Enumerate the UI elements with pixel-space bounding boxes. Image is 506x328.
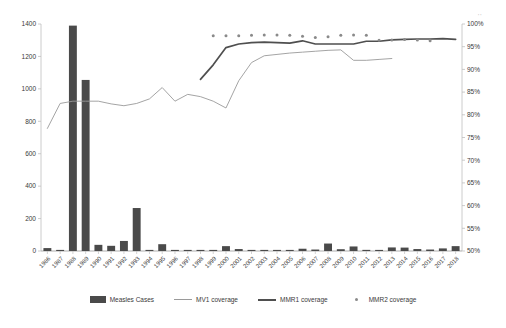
bar-2017 [439, 248, 447, 251]
legend-item-mmr2-coverage[interactable]: MMR2 coverage [348, 296, 417, 303]
bar-2011 [362, 250, 370, 251]
marker-2003 [263, 33, 266, 36]
marker-2004 [276, 33, 279, 36]
thick-line-swatch-icon [258, 299, 276, 301]
legend-item-measles-cases[interactable]: Measles Cases [90, 296, 154, 303]
y-axis-label-right: 50% [467, 247, 480, 254]
bar-2006 [299, 249, 307, 251]
bar-1995 [158, 244, 166, 251]
marker-2016 [429, 39, 432, 42]
marker-2010 [352, 33, 355, 36]
legend-item-mmr1-coverage[interactable]: MMR1 coverage [258, 296, 328, 303]
marker-2008 [327, 35, 330, 38]
bar-1990 [94, 245, 102, 251]
y-axis-label-right: 90% [467, 66, 480, 73]
y-axis-label-right: 95% [467, 43, 480, 50]
x-axis-label: 1991 [102, 255, 116, 269]
top-right-artifact: '' [478, 13, 482, 19]
chart-legend: Measles Cases MV1 coverage MMR1 coverage… [0, 296, 506, 303]
marker-2002 [250, 34, 253, 37]
thin-line-swatch-icon [174, 299, 192, 300]
bar-1998 [197, 250, 205, 251]
bar-1993 [133, 208, 141, 251]
x-axis-label: 1989 [76, 255, 90, 269]
bar-2018 [452, 246, 460, 251]
x-axis-label: 2014 [395, 255, 409, 269]
bar-2014 [401, 248, 409, 251]
y-axis-label-left: 1200 [22, 53, 37, 60]
x-axis-label: 2005 [280, 255, 294, 269]
x-axis-label: 1988 [63, 255, 77, 269]
y-axis-label-right: 80% [467, 111, 480, 118]
marker-2001 [237, 34, 240, 37]
bar-2013 [388, 247, 396, 251]
y-axis-label-right: 75% [467, 134, 480, 141]
marker-2007 [314, 36, 317, 39]
x-axis-label: 1997 [178, 255, 192, 269]
bar-2004 [273, 250, 281, 251]
x-axis-label: 2011 [357, 255, 371, 269]
y-axis-label-left: 200 [25, 215, 36, 222]
bar-2015 [413, 249, 421, 251]
marker-2009 [339, 34, 342, 37]
x-axis-label: 2015 [408, 255, 422, 269]
bar-1986 [43, 248, 51, 251]
marker-2015 [416, 38, 419, 41]
bar-2016 [426, 250, 434, 251]
bar-2008 [324, 244, 332, 251]
legend-item-mv1-coverage[interactable]: MV1 coverage [174, 296, 238, 303]
x-axis-label: 1986 [38, 255, 52, 269]
x-axis-label: 2007 [306, 255, 320, 269]
bar-swatch-icon [90, 296, 106, 303]
marker-2000 [224, 34, 227, 37]
y-axis-label-right: 60% [467, 202, 480, 209]
y-axis-label-left: 600 [25, 150, 36, 157]
bar-1994 [145, 250, 153, 251]
x-axis-label: 2009 [331, 255, 345, 269]
x-axis-label: 1992 [114, 255, 128, 269]
marker-2006 [301, 35, 304, 38]
x-axis-label: 2001 [229, 255, 243, 269]
y-axis-label-right: 55% [467, 225, 480, 232]
x-axis-label: 2017 [433, 255, 447, 269]
line-series-mmr1-coverage [200, 39, 455, 80]
bar-2009 [337, 249, 345, 251]
legend-label-mmr1-coverage: MMR1 coverage [280, 296, 328, 303]
x-axis-label: 2018 [446, 255, 460, 269]
x-axis-label: 1998 [191, 255, 205, 269]
bar-1989 [82, 80, 90, 251]
legend-label-mmr2-coverage: MMR2 coverage [369, 296, 417, 303]
x-axis-label: 1994 [140, 255, 154, 269]
x-axis-label: 2008 [319, 255, 333, 269]
x-axis-label: 1990 [89, 255, 103, 269]
y-axis-label-left: 0 [32, 247, 36, 254]
bar-1997 [184, 250, 192, 251]
line-series-mv1-coverage [47, 50, 391, 129]
bar-1991 [107, 246, 115, 251]
marker-2013 [390, 38, 393, 41]
x-axis-label: 2003 [255, 255, 269, 269]
x-axis-label: 2000 [217, 255, 231, 269]
bar-2001 [235, 249, 243, 251]
bar-2010 [350, 246, 358, 251]
legend-label-measles-cases: Measles Cases [110, 296, 154, 303]
x-axis-label: 1999 [204, 255, 218, 269]
legend-label-mv1-coverage: MV1 coverage [196, 296, 238, 303]
x-axis-label: 2006 [293, 255, 307, 269]
bar-1988 [69, 26, 77, 251]
marker-2005 [288, 34, 291, 37]
marker-2011 [365, 34, 368, 37]
x-axis-label: 2012 [370, 255, 384, 269]
x-axis-label: 1993 [127, 255, 141, 269]
bar-1987 [56, 250, 64, 251]
x-axis-label: 2004 [268, 255, 282, 269]
bar-2007 [311, 250, 319, 251]
bar-2012 [375, 250, 383, 251]
marker-1999 [212, 34, 215, 37]
y-axis-label-right: 70% [467, 157, 480, 164]
x-axis-label: 2013 [382, 255, 396, 269]
marker-2012 [378, 39, 381, 42]
y-axis-label-right: 65% [467, 179, 480, 186]
bar-1996 [171, 250, 179, 251]
bar-2005 [286, 250, 294, 251]
